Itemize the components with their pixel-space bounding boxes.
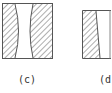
- diagram-canvas: [0, 0, 111, 93]
- panel-d-hatched-region: [83, 11, 100, 58]
- panel-d-label: (d): [99, 75, 111, 85]
- panel-d: [83, 11, 112, 59]
- panel-c-right-hatched-region: [30, 4, 52, 58]
- panel-c-label: (c): [18, 75, 36, 85]
- panel-c-left-hatched-region: [3, 4, 19, 58]
- panel-c: [3, 4, 53, 59]
